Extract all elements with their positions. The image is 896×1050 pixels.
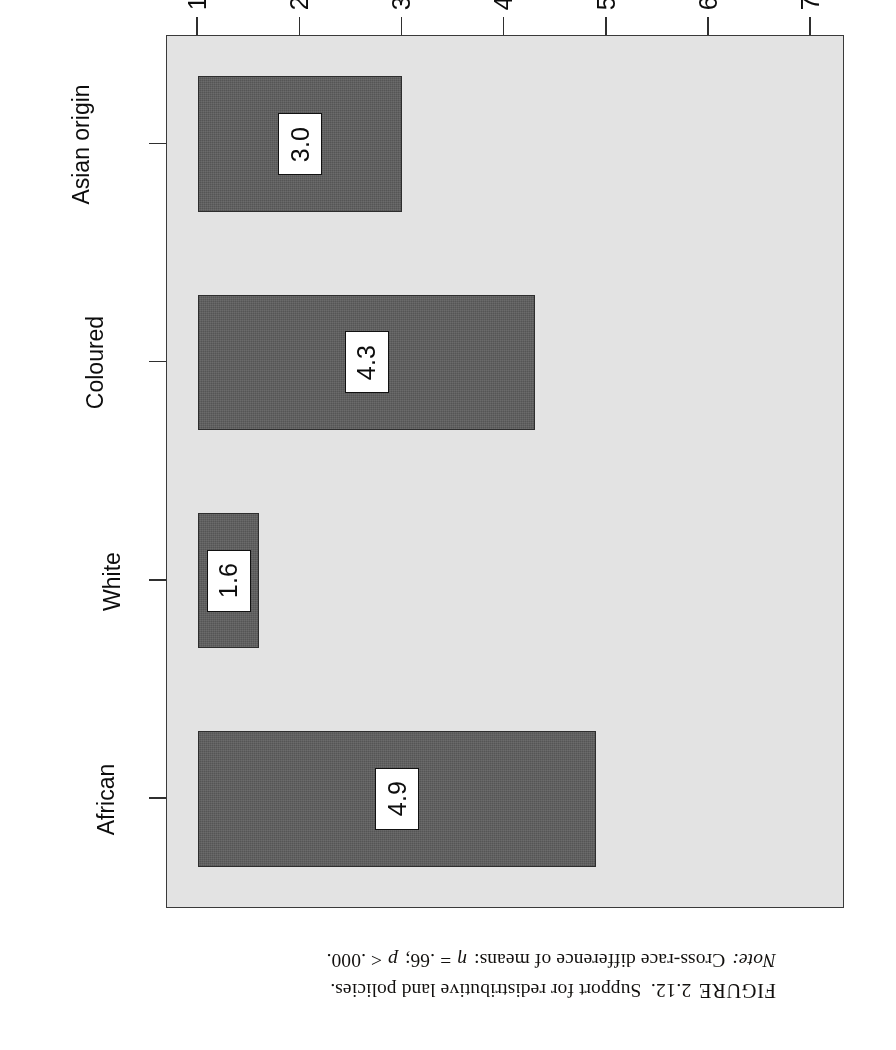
rotated-page: 4.9African1.6White4.3Coloured3.0Asian or… [0, 0, 896, 1050]
category-label-african: African [93, 764, 120, 836]
note-text: Cross-race difference of means: [474, 950, 725, 971]
caption-line-2: Note:Cross-race difference of means:η= .… [136, 945, 776, 975]
category-tick [149, 797, 166, 799]
p-symbol: p [388, 950, 398, 971]
figure-block: 4.9African1.6White4.3Coloured3.0Asian or… [0, 0, 896, 1050]
value-tick [401, 17, 403, 35]
caption-line-1: FIGURE2.12.Support for redistributive la… [136, 975, 776, 1006]
category-label-white: White [99, 552, 126, 611]
value-tick-label: 3.0 [388, 0, 417, 19]
caption-number: 2.12. [650, 980, 691, 1001]
value-tick-label: 2.0 [286, 0, 315, 19]
caption-label: FIGURE [698, 980, 776, 1002]
value-tick [196, 17, 198, 35]
bar-chart: 4.9African1.6White4.3Coloured3.0Asian or… [0, 0, 896, 950]
value-tick-label: 4.0 [490, 0, 519, 19]
category-tick [149, 143, 166, 145]
eta-symbol: η [457, 950, 467, 971]
category-label-coloured: Coloured [82, 316, 109, 409]
value-label-white: 1.6 [207, 550, 251, 612]
value-tick-label: 7.0 [797, 0, 826, 19]
value-tick [809, 17, 811, 35]
value-tick-label: 6.0 [694, 0, 723, 19]
value-label-asian-origin: 3.0 [278, 113, 322, 175]
figure-caption: FIGURE2.12.Support for redistributive la… [136, 945, 776, 1006]
value-tick [605, 17, 607, 35]
category-tick [149, 361, 166, 363]
category-label-asian-origin: Asian origin [68, 85, 95, 205]
value-label-coloured: 4.3 [345, 331, 389, 393]
value-label-african: 4.9 [375, 768, 419, 830]
value-tick [299, 17, 301, 35]
category-tick [149, 579, 166, 581]
value-tick-label: 5.0 [592, 0, 621, 19]
note-label: Note: [732, 950, 776, 971]
value-label-text: 1.6 [214, 563, 243, 599]
note-pvalue: < .000. [326, 950, 382, 971]
note-stat: = .66; [405, 950, 451, 971]
value-label-text: 3.0 [286, 126, 315, 162]
caption-text: Support for redistributive land policies… [330, 980, 641, 1001]
value-label-text: 4.9 [383, 781, 412, 817]
value-tick [503, 17, 505, 35]
value-label-text: 4.3 [352, 345, 381, 381]
value-tick-label: 1.0 [184, 0, 213, 19]
value-tick [707, 17, 709, 35]
